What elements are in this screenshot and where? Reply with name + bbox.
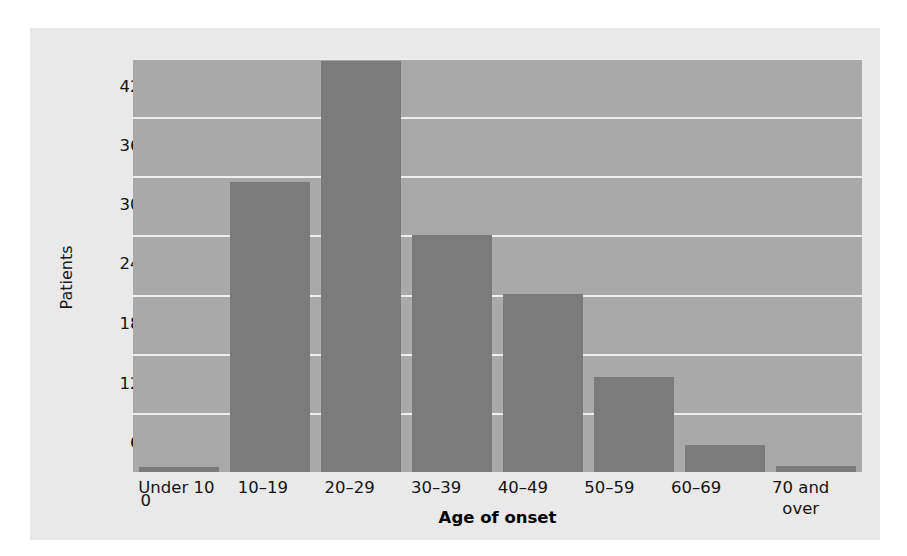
bar-slot (133, 58, 224, 472)
bar[interactable] (412, 235, 492, 472)
bar[interactable] (503, 294, 583, 472)
bar-slot (498, 58, 589, 472)
x-axis-title: Age of onset (133, 508, 862, 527)
bar-slot (315, 58, 406, 472)
bar[interactable] (139, 467, 219, 472)
bar-slot (680, 58, 771, 472)
bar-slot (589, 58, 680, 472)
chart-figure: Patients 0 60 120 180 240 300 360 420 (30, 28, 880, 540)
bar-slot (771, 58, 862, 472)
bar-slot (406, 58, 497, 472)
plot-area (133, 58, 862, 472)
bar[interactable] (776, 466, 856, 472)
bar[interactable] (685, 445, 765, 472)
bar[interactable] (321, 61, 401, 472)
bar[interactable] (230, 182, 310, 472)
bar[interactable] (594, 377, 674, 472)
bar-series (133, 58, 862, 472)
bar-slot (224, 58, 315, 472)
